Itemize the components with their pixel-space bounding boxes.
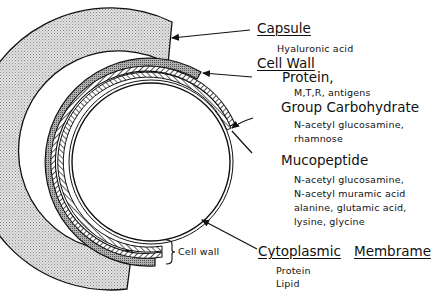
membrane-title: Membrame xyxy=(354,245,431,259)
cytoplasmic-title: Cytoplasmic xyxy=(258,245,341,259)
capsule-arrow xyxy=(172,30,250,38)
membrane-detail-1: Protein xyxy=(276,266,311,276)
mucopeptide-detail-2: N-acetyl muramic acid xyxy=(294,189,405,199)
cytoplasmic-membrane xyxy=(69,80,233,244)
protein-arrow xyxy=(203,73,252,77)
mucopeptide-detail-1: N-acetyl glucosamine, xyxy=(294,175,404,185)
mucopeptide-detail-3: alanine, glutamic acid, xyxy=(294,203,407,213)
group-carbohydrate-detail-1: N-acetyl glucosamine, xyxy=(294,120,404,130)
mucopeptide-title: Mucopeptide xyxy=(281,154,368,168)
protein-detail: M,T,R, antigens xyxy=(294,88,371,98)
cell-wall-bracket-label: Cell wall xyxy=(178,247,219,257)
membrane-arrow xyxy=(202,220,257,249)
protein-title: Protein, xyxy=(282,71,334,85)
mucopeptide-detail-4: lysine, glycine xyxy=(294,217,365,227)
mucopeptide-pointer xyxy=(232,131,252,153)
capsule-title: Capsule xyxy=(257,22,311,36)
membrane-detail-2: Lipid xyxy=(276,279,300,289)
capsule-detail: Hyaluronic acid xyxy=(277,44,353,54)
group-carbohydrate-detail-2: rhamnose xyxy=(294,134,343,144)
group-carbohydrate-title: Group Carbohydrate xyxy=(281,101,419,115)
cell-wall-bracket xyxy=(166,240,175,264)
